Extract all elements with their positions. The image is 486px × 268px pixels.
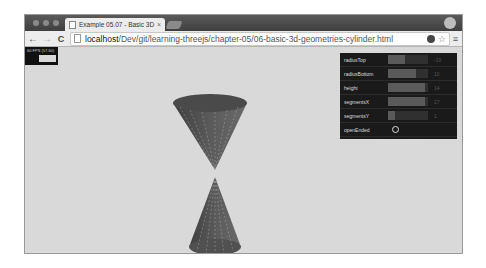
fps-label: 60 FPS (57-60): [25, 47, 58, 54]
page-icon: [74, 34, 81, 43]
control-label: openEnded: [340, 127, 388, 133]
page-icon: [69, 21, 76, 29]
dat-gui-panel: radiusTop -10 radiusBottom 10 height 14 …: [340, 53, 457, 139]
fps-graph: [39, 55, 56, 62]
forward-button[interactable]: →: [41, 33, 53, 44]
minimize-window-button[interactable]: [43, 20, 49, 26]
close-controls-button[interactable]: Close Controls: [340, 137, 457, 148]
height-slider[interactable]: [388, 83, 428, 92]
radius-bottom-slider[interactable]: [388, 69, 428, 78]
webgl-canvas[interactable]: 60 FPS (57-60) radiusTop -10 radiusBotto…: [25, 47, 462, 254]
window-controls: [33, 20, 59, 26]
control-label: radiusTop: [340, 57, 388, 63]
fps-stats[interactable]: 60 FPS (57-60): [25, 47, 58, 65]
control-value[interactable]: 1: [434, 113, 437, 119]
bottom-cone: [189, 177, 241, 254]
control-label: segmentsX: [340, 99, 388, 105]
title-bar: Example 05.07 - Basic 3D ×: [25, 15, 462, 31]
control-value[interactable]: -10: [434, 57, 441, 63]
segments-x-slider[interactable]: [388, 97, 428, 106]
control-row-radius-bottom: radiusBottom 10: [340, 67, 457, 81]
new-tab-button[interactable]: [166, 21, 183, 29]
control-row-open-ended: openEnded: [340, 123, 457, 137]
profile-avatar-icon[interactable]: [444, 17, 456, 29]
maximize-window-button[interactable]: [53, 20, 59, 26]
browser-window: Example 05.07 - Basic 3D × ← → C localho…: [24, 14, 463, 254]
close-window-button[interactable]: [33, 20, 39, 26]
control-row-radius-top: radiusTop -10: [340, 53, 457, 67]
browser-toolbar: ← → C localhost/Dev/git/learning-threejs…: [25, 31, 462, 47]
tab-active[interactable]: Example 05.07 - Basic 3D ×: [65, 18, 165, 31]
control-value[interactable]: 14: [434, 85, 440, 91]
tab-close-icon[interactable]: ×: [157, 21, 161, 28]
segments-y-slider[interactable]: [388, 111, 428, 120]
open-ended-checkbox[interactable]: [392, 126, 399, 133]
control-row-height: height 14: [340, 81, 457, 95]
control-label: height: [340, 85, 388, 91]
control-label: radiusBottom: [340, 71, 388, 77]
bookmark-star-icon[interactable]: ☆: [438, 34, 446, 44]
control-value[interactable]: 10: [434, 71, 440, 77]
control-row-segments-x: segmentsX 17: [340, 95, 457, 109]
url-host: localhost: [85, 34, 119, 44]
control-label: segmentsY: [340, 113, 388, 119]
control-value[interactable]: 17: [434, 99, 440, 105]
top-cone: [173, 94, 247, 170]
address-bar[interactable]: localhost/Dev/git/learning-threejs/chapt…: [70, 32, 450, 46]
back-button[interactable]: ←: [27, 33, 39, 44]
radius-top-slider[interactable]: [388, 55, 428, 64]
menu-icon[interactable]: ≡: [453, 34, 458, 44]
url-path: /Dev/git/learning-threejs/chapter-05/06-…: [119, 34, 394, 44]
tab-title: Example 05.07 - Basic 3D: [79, 21, 155, 28]
extension-icon[interactable]: [427, 35, 435, 43]
reload-button[interactable]: C: [55, 34, 67, 44]
control-row-segments-y: segmentsY 1: [340, 109, 457, 123]
